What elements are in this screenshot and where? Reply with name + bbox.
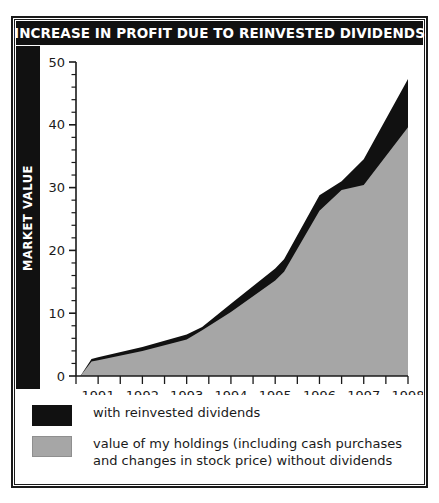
- legend-swatch-with-reinvested-dividends: [32, 405, 72, 426]
- chart-legend: with reinvested dividends value of my ho…: [32, 404, 414, 480]
- y-tick-label: 50: [48, 55, 65, 70]
- x-tick-label: 1996: [303, 388, 336, 395]
- y-axis-label: MARKET VALUE: [21, 164, 35, 270]
- legend-label-without-dividends: value of my holdings (including cash pur…: [93, 435, 402, 469]
- y-tick-label: 10: [48, 306, 65, 321]
- chart-page: INCREASE IN PROFIT DUE TO REINVESTED DIV…: [0, 0, 439, 503]
- y-tick-label: 0: [57, 369, 65, 384]
- plot-area: 0102030405019911992199319941995199619971…: [40, 46, 423, 395]
- legend-swatch-without-dividends: [32, 436, 72, 457]
- x-tick-label: 1997: [347, 388, 380, 395]
- x-tick-label: 1992: [126, 388, 159, 395]
- x-tick-label: 1998: [391, 388, 423, 395]
- y-tick-label: 30: [48, 180, 65, 195]
- legend-line: value of my holdings (including cash pur…: [93, 435, 402, 452]
- x-tick-label: 1995: [259, 388, 292, 395]
- area-chart-svg: 0102030405019911992199319941995199619971…: [40, 46, 423, 395]
- x-tick-label: 1991: [82, 388, 115, 395]
- legend-line: and changes in stock price) without divi…: [93, 452, 402, 469]
- y-tick-label: 20: [48, 243, 65, 258]
- y-tick-label: 40: [48, 117, 65, 132]
- page-title: INCREASE IN PROFIT DUE TO REINVESTED DIV…: [14, 25, 425, 41]
- legend-label-with-reinvested-dividends: with reinvested dividends: [93, 404, 260, 421]
- legend-item-black: with reinvested dividends: [32, 404, 414, 426]
- chart-title-bar: INCREASE IN PROFIT DUE TO REINVESTED DIV…: [16, 21, 423, 45]
- legend-item-gray: value of my holdings (including cash pur…: [32, 435, 414, 469]
- legend-line: with reinvested dividends: [93, 404, 260, 421]
- x-tick-label: 1994: [214, 388, 247, 395]
- y-axis-label-band: MARKET VALUE: [16, 46, 40, 389]
- x-tick-label: 1993: [170, 388, 203, 395]
